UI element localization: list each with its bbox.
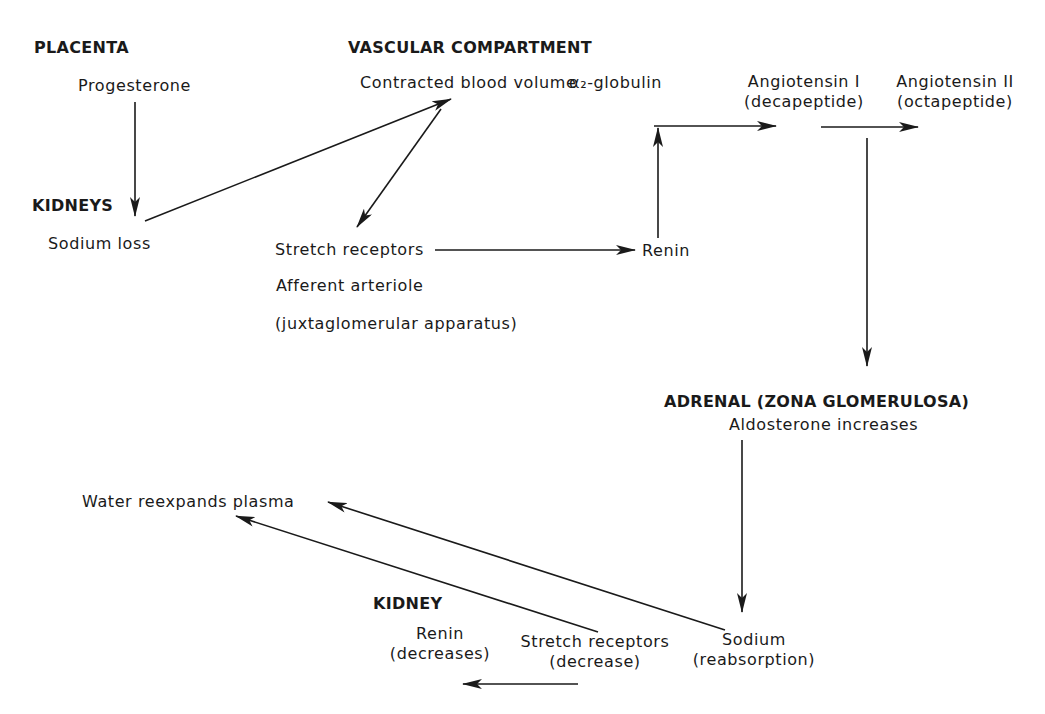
angiotensin-1-label: Angiotensin I <box>734 72 874 92</box>
node-progesterone: Progesterone <box>78 76 191 96</box>
angiotensin-1-sublabel: (decapeptide) <box>734 92 874 112</box>
section-vascular-compartment: VASCULAR COMPARTMENT <box>348 38 592 58</box>
node-sodium-loss: Sodium loss <box>48 234 151 254</box>
node-angiotensin-1: Angiotensin I (decapeptide) <box>734 72 874 112</box>
node-stretch-receptors: Stretch receptors <box>275 240 424 260</box>
renin-decreases-label: Renin <box>380 624 500 644</box>
section-placenta: PLACENTA <box>34 38 129 58</box>
stretch-decrease-sublabel: (decrease) <box>510 652 680 672</box>
sodium-label: Sodium <box>684 630 824 650</box>
node-renin: Renin <box>642 241 690 261</box>
angiotensin-2-sublabel: (octapeptide) <box>880 92 1030 112</box>
node-water-reexpands-plasma: Water reexpands plasma <box>82 492 295 512</box>
node-stretch-receptors-decrease: Stretch receptors (decrease) <box>510 632 680 672</box>
renin-decreases-sublabel: (decreases) <box>380 644 500 664</box>
angiotensin-2-label: Angiotensin II <box>880 72 1030 92</box>
node-sodium-reabsorption: Sodium (reabsorption) <box>684 630 824 670</box>
node-renin-decreases: Renin (decreases) <box>380 624 500 664</box>
node-afferent-arteriole: Afferent arteriole <box>276 276 423 296</box>
section-adrenal: ADRENAL (ZONA GLOMERULOSA) <box>664 392 969 412</box>
node-angiotensin-2: Angiotensin II (octapeptide) <box>880 72 1030 112</box>
node-juxtaglomerular-apparatus: (juxtaglomerular apparatus) <box>275 314 517 334</box>
section-kidney: KIDNEY <box>373 594 442 614</box>
node-alpha2-globulin: α₂-globulin <box>569 73 662 93</box>
sodium-sublabel: (reabsorption) <box>684 650 824 670</box>
arrow-blood-volume-to-stretch-receptors <box>357 109 441 227</box>
node-contracted-blood-volume: Contracted blood volume <box>360 73 576 93</box>
stretch-decrease-label: Stretch receptors <box>510 632 680 652</box>
node-aldosterone-increases: Aldosterone increases <box>729 415 918 435</box>
arrow-stretch-decrease-to-water <box>236 516 598 632</box>
section-kidneys: KIDNEYS <box>32 196 113 216</box>
